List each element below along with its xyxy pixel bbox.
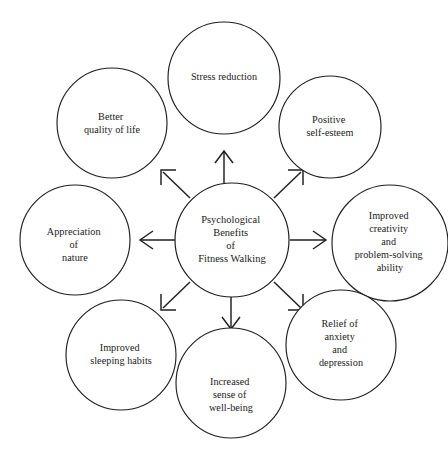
node-improved-creativity[interactable]: Improved creativity and problem-solving … bbox=[332, 185, 448, 301]
diagram-canvas: Stress reduction Positive self-esteem Im… bbox=[0, 0, 448, 469]
arrow-up-left bbox=[161, 170, 190, 198]
center-hub[interactable]: Psychological Benefits of Fitness Walkin… bbox=[175, 183, 289, 297]
node-label: Increased sense of well-being bbox=[209, 376, 253, 413]
arrow-down bbox=[222, 294, 240, 329]
arrow-right bbox=[290, 231, 326, 249]
node-positive-self-esteem[interactable]: Positive self-esteem bbox=[279, 76, 381, 178]
arrow-left bbox=[140, 231, 176, 249]
arrow-down-right bbox=[274, 282, 303, 310]
node-circle bbox=[57, 68, 167, 178]
node-improved-sleeping-habits[interactable]: Improved sleeping habits bbox=[66, 300, 176, 410]
node-better-quality-of-life[interactable]: Better quality of life bbox=[57, 68, 167, 178]
arrow-up bbox=[215, 151, 233, 186]
diagram-container: Stress reduction Positive self-esteem Im… bbox=[0, 0, 448, 469]
node-stress-reduction[interactable]: Stress reduction bbox=[168, 22, 280, 134]
arrow-up-right bbox=[274, 170, 303, 198]
node-appreciation-of-nature[interactable]: Appreciation of nature bbox=[20, 185, 130, 295]
node-relief-of-anxiety[interactable]: Relief of anxiety and depression bbox=[286, 290, 396, 400]
node-increased-well-being[interactable]: Increased sense of well-being bbox=[176, 328, 286, 438]
node-label: Stress reduction bbox=[191, 71, 257, 82]
arrow-down-left bbox=[161, 282, 190, 310]
